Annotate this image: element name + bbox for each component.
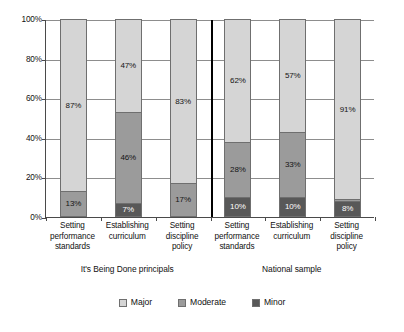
y-axis: 0%20%40%60%80%100% (0, 0, 42, 332)
y-axis-tick-label: 80% (2, 55, 42, 63)
y-axis-tick-label: 60% (2, 95, 42, 103)
y-axis-tick-label: 40% (2, 135, 42, 143)
x-axis-category-label: Settingdisciplinepolicy (155, 221, 210, 253)
y-axis-tick-mark (42, 20, 46, 21)
legend-item[interactable]: Major (119, 298, 152, 307)
bar-segment-major: 47% (115, 19, 142, 112)
x-axis-category-label: Settingperformancestandards (45, 221, 100, 253)
bar-segment-value-label: 87% (66, 102, 82, 110)
bar-segment-value-label: 83% (175, 98, 191, 106)
bar: 13%87% (60, 19, 87, 217)
bar-segment-value-label: 8% (342, 205, 353, 213)
bar-segment-moderate: 46% (115, 112, 142, 203)
y-axis-tick-mark (42, 60, 46, 61)
y-axis-tick-mark (42, 178, 46, 179)
legend-label: Major (131, 298, 152, 307)
x-axis-tick-mark (375, 217, 376, 221)
bar-segment-value-label: 47% (120, 62, 136, 70)
group-label: National sample (212, 264, 372, 274)
bar-segment-value-label: 57% (285, 72, 301, 80)
bar-segment-major: 83% (170, 19, 197, 183)
bar-segment-major: 57% (279, 19, 306, 132)
stacked-bar-chart: 0%20%40%60%80%100% 13%87%7%46%47%17%83%1… (0, 0, 404, 332)
bar: 7%46%47% (115, 19, 142, 217)
bar-segment-major: 62% (224, 19, 251, 142)
bar-segment-value-label: 10% (285, 203, 301, 211)
bar: 8%91% (334, 19, 361, 217)
legend-swatch-major-icon (119, 299, 127, 307)
bar-segment-value-label: 17% (175, 196, 191, 204)
bar-segment-major: 87% (60, 19, 87, 191)
legend-label: Moderate (190, 298, 226, 307)
bar-segment-minor: 10% (224, 197, 251, 217)
x-axis-category-label: Settingperformancestandards (210, 221, 265, 253)
group-labels: It's Being Done principalsNational sampl… (45, 264, 374, 278)
bar: 17%83% (170, 19, 197, 217)
legend-item[interactable]: Minor (252, 298, 285, 307)
bar-segment-minor: 8% (334, 201, 361, 217)
group-divider (211, 20, 213, 217)
bar: 10%28%62% (224, 19, 251, 217)
bar-segment-moderate: 13% (60, 191, 87, 217)
chart-legend: MajorModerateMinor (0, 298, 404, 307)
y-axis-tick-label: 0% (2, 214, 42, 222)
bar-segment-value-label: 10% (230, 203, 246, 211)
bar-segment-value-label: 28% (230, 166, 246, 174)
bar-segment-moderate (334, 199, 361, 201)
legend-swatch-minor-icon (252, 299, 260, 307)
x-axis-category-label: Establishingcurriculum (100, 221, 155, 242)
bar-segment-value-label: 33% (285, 161, 301, 169)
bar-segment-major: 91% (334, 19, 361, 199)
bar-segment-value-label: 7% (123, 206, 134, 214)
bar-segment-value-label: 13% (66, 200, 82, 208)
bar-segment-value-label: 46% (120, 154, 136, 162)
bar-segment-moderate: 33% (279, 132, 306, 197)
legend-swatch-moderate-icon (178, 299, 186, 307)
bar-segment-minor: 10% (279, 197, 306, 217)
y-axis-tick-label: 100% (2, 16, 42, 24)
bar-segment-minor: 7% (115, 203, 142, 217)
x-axis-category-labels: SettingperformancestandardsEstablishingc… (45, 221, 374, 261)
y-axis-tick-mark (42, 139, 46, 140)
bar-segment-moderate: 28% (224, 142, 251, 197)
legend-label: Minor (264, 298, 285, 307)
bar-segment-value-label: 62% (230, 77, 246, 85)
plot-area: 13%87%7%46%47%17%83%10%28%62%10%33%57%8%… (45, 20, 374, 218)
bar-segment-value-label: 91% (340, 106, 356, 114)
bar: 10%33%57% (279, 19, 306, 217)
legend-item[interactable]: Moderate (178, 298, 226, 307)
x-axis-category-label: Establishingcurriculum (264, 221, 319, 242)
group-label: It's Being Done principals (47, 264, 207, 274)
y-axis-tick-label: 20% (2, 174, 42, 182)
x-axis-category-label: Settingdisciplinepolicy (319, 221, 374, 253)
bar-segment-moderate: 17% (170, 183, 197, 217)
y-axis-tick-mark (42, 99, 46, 100)
